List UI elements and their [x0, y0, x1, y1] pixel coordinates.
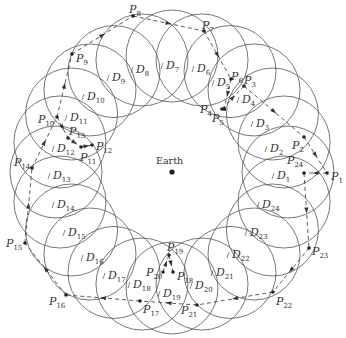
- position-point: [271, 290, 275, 294]
- earth-label: Earth: [156, 155, 183, 166]
- disc-circle: [208, 208, 300, 300]
- position-point: [55, 115, 59, 119]
- point-label: P17: [142, 303, 159, 318]
- point-label: P8: [128, 3, 141, 18]
- disc-label: D1: [276, 169, 290, 184]
- point-label: P15: [5, 237, 22, 252]
- disc-label: D20: [194, 279, 213, 294]
- position-point: [302, 135, 306, 139]
- point-label: P11: [79, 151, 96, 166]
- disc-label: D23: [249, 226, 268, 241]
- point-label: P21: [180, 304, 197, 319]
- point-label: P22: [275, 295, 292, 310]
- disc-label: D21: [215, 266, 234, 281]
- point-label: P16: [48, 295, 66, 310]
- point-label: P2: [291, 139, 304, 154]
- position-point: [302, 171, 306, 175]
- disc-label: D9: [111, 71, 125, 86]
- position-point: [222, 107, 226, 111]
- disc-label: D11: [69, 111, 88, 126]
- position-point: [30, 166, 34, 170]
- disc-label: D19: [162, 287, 181, 302]
- disc-label: D10: [86, 90, 105, 105]
- disc-label: D22: [231, 248, 250, 263]
- point-label: P18: [176, 270, 193, 285]
- point-label: P5: [211, 112, 224, 127]
- point-label: P9: [75, 52, 88, 67]
- point-label: P24: [286, 154, 304, 169]
- disc-label: D14: [56, 198, 75, 213]
- disc-label: D24: [261, 198, 280, 213]
- point-label: P3: [243, 74, 256, 89]
- disc-label: D5: [216, 76, 230, 91]
- disc-label: D13: [52, 169, 71, 184]
- disc-label: D17: [107, 269, 126, 284]
- position-point: [90, 143, 94, 147]
- point-label: P12: [95, 140, 112, 155]
- point-label: P6: [230, 70, 243, 85]
- disc-label: D16: [85, 251, 104, 266]
- position-point: [195, 303, 199, 307]
- disc-label: D18: [132, 278, 151, 293]
- position-point: [23, 241, 27, 245]
- point-label: P14: [13, 156, 31, 171]
- disc-label: D2: [269, 142, 283, 157]
- earth-dot: [169, 169, 174, 174]
- position-point: [70, 52, 74, 56]
- position-point: [307, 246, 311, 250]
- disc-label: D3: [255, 117, 269, 132]
- position-point: [79, 145, 83, 149]
- position-point: [64, 293, 68, 297]
- disc-label: D15: [67, 226, 86, 241]
- position-point: [325, 171, 329, 175]
- point-label: P1: [330, 170, 343, 185]
- position-point: [138, 299, 142, 303]
- coverage-diagram-svg: D1D2D3D4D5D6D7D8D9D10D11D12D13D14D15D16D…: [0, 0, 346, 338]
- point-label: P7: [201, 19, 214, 34]
- disc-label: D8: [135, 63, 149, 78]
- disc-label: D7: [165, 59, 179, 74]
- point-label: P13: [68, 125, 85, 140]
- disc-circle: [242, 126, 334, 218]
- point-label: P23: [311, 245, 328, 260]
- disc-label: D6: [196, 62, 211, 77]
- disc-label: D12: [56, 142, 75, 157]
- position-point: [171, 270, 175, 274]
- disc-label: D4: [241, 93, 256, 108]
- diagram: D1D2D3D4D5D6D7D8D9D10D11D12D13D14D15D16D…: [0, 0, 346, 338]
